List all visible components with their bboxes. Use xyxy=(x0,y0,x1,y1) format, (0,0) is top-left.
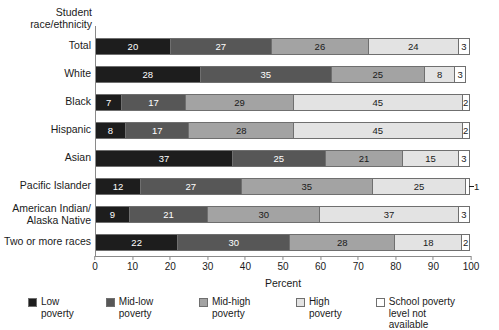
chart-bar-row: American Indian/ Alaska Native92130373 xyxy=(96,206,470,223)
bar-segment: 7 xyxy=(96,94,122,111)
legend-swatch-icon xyxy=(376,298,385,307)
bar-segment: 25 xyxy=(332,66,426,83)
bar-segment-value: 29 xyxy=(234,97,245,108)
bar-segment: 29 xyxy=(186,94,294,111)
category-label: Total xyxy=(0,40,91,52)
legend-swatch-icon xyxy=(28,298,37,307)
plot-area: Total202726243White28352583Black71729452… xyxy=(96,32,470,256)
chart-bar-row: Pacific Islander122735251 xyxy=(96,178,470,195)
legend-label: Low poverty xyxy=(41,296,92,319)
category-label: Hispanic xyxy=(0,124,91,136)
legend-label: School poverty level not available xyxy=(389,296,464,330)
bar-segment: 30 xyxy=(178,234,290,251)
x-axis-ticks: 0102030405060708090100 xyxy=(95,256,471,278)
bar-segment-value: 2 xyxy=(463,97,468,108)
bar-segment-value: 12 xyxy=(113,181,124,192)
x-axis-tick: 100 xyxy=(463,256,480,272)
bar-segment: 21 xyxy=(130,206,209,223)
bar-segment: 37 xyxy=(96,150,233,167)
bar-segment: 26 xyxy=(272,38,369,55)
bar-segment-value: 3 xyxy=(461,41,466,52)
bar-segment: 3 xyxy=(459,38,470,55)
bar-segment-value: 25 xyxy=(274,153,285,164)
legend-item[interactable]: Mid-low poverty xyxy=(106,296,185,319)
legend-item[interactable]: Mid-high poverty xyxy=(199,296,282,319)
legend-label: High poverty xyxy=(309,296,362,319)
bar-segment-value: 3 xyxy=(461,153,466,164)
bar-segment-value: 8 xyxy=(437,69,442,80)
bar-segment-value: 28 xyxy=(236,125,247,136)
bar-segment: 28 xyxy=(96,66,201,83)
bar-segment: 17 xyxy=(122,94,186,111)
x-axis-tick-mark xyxy=(283,256,284,260)
bar-segment-value: 1 xyxy=(474,181,479,192)
x-axis-tick-label: 70 xyxy=(353,261,364,272)
bar-segment-value: 45 xyxy=(373,125,384,136)
bar-segment: 1 xyxy=(466,178,470,195)
bar-segment: 15 xyxy=(403,150,459,167)
bar-segment-value: 24 xyxy=(408,41,419,52)
bar-segment: 22 xyxy=(96,234,178,251)
bar-segment: 25 xyxy=(373,178,467,195)
x-axis-tick-mark xyxy=(395,256,396,260)
bar-segment-value: 3 xyxy=(457,69,462,80)
x-axis-tick-label: 40 xyxy=(240,261,251,272)
bar-segment: 12 xyxy=(96,178,141,195)
x-axis-tick-label: 100 xyxy=(463,261,480,272)
bar-segment-value: 28 xyxy=(337,237,348,248)
x-axis-tick-mark xyxy=(433,256,434,260)
chart-bar-row: Total202726243 xyxy=(96,38,470,55)
bar-segment-value: 17 xyxy=(148,97,159,108)
category-label: Pacific Islander xyxy=(0,180,91,192)
x-axis-tick: 90 xyxy=(428,256,439,272)
x-axis-tick-label: 60 xyxy=(315,261,326,272)
category-label: Black xyxy=(0,96,91,108)
bar-segment: 2 xyxy=(463,122,470,139)
bar-segment-value: 22 xyxy=(131,237,142,248)
legend-label: Mid-low poverty xyxy=(119,296,185,319)
legend-item[interactable]: High poverty xyxy=(296,296,362,319)
bar-segment: 45 xyxy=(294,122,462,139)
x-axis-tick-mark xyxy=(207,256,208,260)
bar-segment-value: 26 xyxy=(315,41,326,52)
bar-segment-value: 25 xyxy=(414,181,425,192)
bar-segment: 25 xyxy=(233,150,326,167)
x-axis-tick-label: 10 xyxy=(127,261,138,272)
bar-segment-value: 18 xyxy=(423,237,434,248)
x-axis-tick-mark xyxy=(95,256,96,260)
bar-segment-value: 15 xyxy=(425,153,436,164)
category-label: White xyxy=(0,68,91,80)
x-axis-tick-mark xyxy=(320,256,321,260)
x-axis-tick: 20 xyxy=(165,256,176,272)
bar-segment: 2 xyxy=(463,94,470,111)
bar-segment: 24 xyxy=(369,38,459,55)
stacked-bar-chart: Student race/ethnicity Total202726243Whi… xyxy=(0,0,499,330)
bar-segment-value: 37 xyxy=(384,209,395,220)
legend-swatch-icon xyxy=(106,298,115,307)
bar-segment-value: 35 xyxy=(260,69,271,80)
bar-segment: 28 xyxy=(290,234,395,251)
bar-segment-value: 35 xyxy=(302,181,313,192)
legend-item[interactable]: Low poverty xyxy=(28,296,92,319)
bar-segment: 3 xyxy=(459,150,470,167)
x-axis-tick-mark xyxy=(358,256,359,260)
bar-segment: 9 xyxy=(96,206,130,223)
bar-segment-value: 20 xyxy=(128,41,139,52)
x-axis-tick-mark xyxy=(471,256,472,260)
bar-segment-value: 28 xyxy=(143,69,154,80)
x-axis-tick: 30 xyxy=(202,256,213,272)
bar-segment: 3 xyxy=(459,206,470,223)
bar-segment: 8 xyxy=(425,66,455,83)
bar-segment: 27 xyxy=(141,178,242,195)
category-label: American Indian/ Alaska Native xyxy=(0,203,91,226)
bar-segment-value: 27 xyxy=(186,181,197,192)
bar-segment: 35 xyxy=(201,66,332,83)
bar-segment: 21 xyxy=(326,150,404,167)
bar-segment-value: 30 xyxy=(229,237,240,248)
x-axis-tick-label: 50 xyxy=(277,261,288,272)
x-axis-tick: 10 xyxy=(127,256,138,272)
legend-item[interactable]: School poverty level not available xyxy=(376,296,464,330)
x-axis-tick-label: 80 xyxy=(390,261,401,272)
bar-segment-value: 21 xyxy=(163,209,174,220)
legend-swatch-icon xyxy=(199,298,208,307)
